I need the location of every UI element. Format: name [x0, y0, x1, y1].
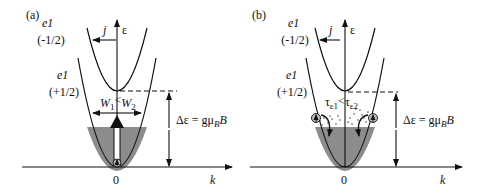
transition-arrow-head: [110, 115, 124, 128]
k-axis-label-a: k: [210, 173, 216, 187]
energy-axis-label-a: ε: [122, 23, 127, 37]
upper-band-spin-b: (-1/2): [281, 33, 308, 47]
lower-band-spin-b: (+1/2): [277, 85, 307, 99]
panel-a: (a) e1 (-1/2) e1 (+1/2) j ε 0 k W1<W2 Δε…: [22, 8, 232, 187]
spin-band-diagram: (a) e1 (-1/2) e1 (+1/2) j ε 0 k W1<W2 Δε…: [0, 0, 483, 194]
origin-label-a: 0: [113, 173, 119, 187]
comparison-a: W1<W2: [100, 93, 136, 112]
origin-label-b: 0: [341, 173, 347, 187]
current-label-b: j: [327, 23, 333, 37]
current-label-a: j: [101, 23, 107, 37]
transition-arrow-shaft: [114, 126, 120, 162]
k-axis-label-b: k: [440, 173, 446, 187]
panel-b: (b) e1 (-1/2) e1 (+1/2) j ε 0 k τε1<τε2 …: [250, 8, 462, 187]
lower-band-name-b: e1: [286, 68, 297, 82]
upper-band-name-b: e1: [288, 16, 299, 30]
lower-band-spin-a: (+1/2): [49, 85, 79, 99]
energy-axis-label-b: ε: [350, 23, 355, 37]
panel-label-a: (a): [26, 8, 39, 22]
upper-band-spin-a: (-1/2): [37, 33, 64, 47]
comparison-b: τε1<τε2: [325, 94, 358, 111]
upper-band-name-a: e1: [42, 16, 53, 30]
panel-label-b: (b): [252, 8, 266, 22]
lower-band-name-a: e1: [57, 68, 68, 82]
splitting-label-b: Δε = gμBB: [403, 113, 454, 129]
splitting-label-a: Δε = gμBB: [176, 113, 227, 129]
